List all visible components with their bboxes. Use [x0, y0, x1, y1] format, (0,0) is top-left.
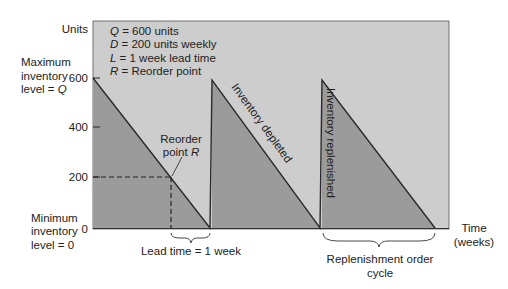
- cycle-label-1: Replenishment order: [327, 253, 434, 265]
- ytick-label-600: 600: [69, 72, 88, 84]
- max-inventory-label-1: Maximum: [21, 56, 71, 68]
- min-inventory-label-3: level = 0: [31, 239, 74, 251]
- inventory-replenished-label: Inventory replenished: [325, 88, 337, 198]
- legend-l: L = 1 week lead time: [110, 52, 216, 64]
- ytick-label-400: 400: [69, 121, 88, 133]
- max-inventory-label-3: level = Q: [21, 83, 67, 95]
- lead-time-brace: [171, 233, 210, 243]
- inventory-sawtooth-chart: 600 400 200 0 Units Q = 600 units D = 20…: [0, 0, 508, 289]
- legend-r: R = Reorder point: [110, 65, 202, 77]
- time-label-2: (weeks): [454, 236, 494, 248]
- legend-d: D = 200 units weekly: [110, 38, 217, 50]
- cycle-brace: [323, 233, 435, 247]
- legend-q: Q = 600 units: [110, 25, 179, 37]
- min-inventory-label-1: Minimum: [31, 212, 78, 224]
- lead-time-label: Lead time = 1 week: [141, 245, 241, 257]
- ytick-label-200: 200: [69, 171, 88, 183]
- max-inventory-label-2: inventory: [21, 70, 68, 82]
- reorder-label-2: point R: [163, 146, 199, 158]
- time-label-1: Time: [461, 222, 486, 234]
- cycle-label-2: cycle: [367, 267, 393, 279]
- min-inventory-label-2: inventory: [31, 225, 78, 237]
- ytick-label-0: 0: [82, 223, 88, 235]
- reorder-label-1: Reorder: [160, 133, 202, 145]
- units-label: Units: [62, 23, 88, 35]
